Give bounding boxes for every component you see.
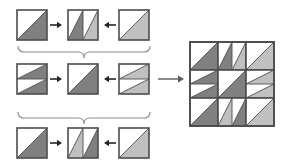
tile-base-light-cell-0: [119, 10, 149, 40]
tile-base-dark-bottom[interactable]: [17, 128, 47, 158]
tile-base-dark-center-cell-0: [68, 64, 98, 94]
tile-base-dark-center[interactable]: [68, 64, 98, 94]
arrow-right-middle-left: [50, 76, 62, 82]
row-middle: [17, 64, 149, 94]
tile-horizontal-split-dark-dark[interactable]: [17, 64, 47, 94]
grid-cell-2-1-cell-1: [232, 98, 246, 126]
grid-cell-2-1-cell-0: [218, 98, 232, 126]
tile-horizontal-split-dark-dark-cell-1: [17, 79, 47, 94]
arrow-left-top-right-head: [104, 22, 109, 28]
grid-cell-0-1[interactable]: [218, 42, 246, 70]
arrow-to-result: [158, 75, 184, 82]
grid-cell-1-2-cell-1: [246, 84, 274, 98]
tile-substitution-figure: [0, 0, 282, 167]
tile-vertical-split-dark-light-cell-0: [68, 10, 83, 40]
tile-base-dark-bottom-cell-0: [17, 128, 47, 158]
arrow-left-middle-right-head: [104, 76, 109, 82]
tile-horizontal-split-light-light-cell-1: [119, 79, 149, 94]
grid-cell-2-0[interactable]: [190, 98, 218, 126]
arrow-left-bottom-right: [104, 140, 116, 146]
arrow-right-bottom-left-head: [57, 140, 62, 146]
grid-cell-1-0[interactable]: [190, 70, 218, 98]
composite-tile-grid[interactable]: [190, 42, 274, 126]
grid-cell-1-2-cell-0: [246, 70, 274, 84]
tile-vertical-split-light-dark-cell-0: [68, 128, 83, 158]
arrow-right-top-left-head: [57, 22, 62, 28]
grid-cell-1-0-cell-0: [190, 70, 218, 84]
tile-vertical-split-dark-light-cell-1: [83, 10, 98, 40]
grid-cell-2-2[interactable]: [246, 98, 274, 126]
tile-base-dark[interactable]: [17, 10, 47, 40]
grid-cell-0-1-cell-1: [232, 42, 246, 70]
grid-cell-1-1[interactable]: [218, 70, 246, 98]
grid-cell-1-2[interactable]: [246, 70, 274, 98]
arrow-left-bottom-right-head: [104, 140, 109, 146]
grid-cell-0-1-cell-0: [218, 42, 232, 70]
grid-cell-0-2[interactable]: [246, 42, 274, 70]
brace-upper: [18, 46, 150, 58]
tile-horizontal-split-light-light-cell-0: [119, 64, 149, 79]
grid-cell-2-0-cell-0: [190, 98, 218, 126]
arrow-right-top-left: [50, 22, 62, 28]
tile-base-light[interactable]: [119, 10, 149, 40]
row-top: [17, 10, 149, 40]
grid-cell-0-0-cell-0: [190, 42, 218, 70]
arrow-right-bottom-left: [50, 140, 62, 146]
grid-cell-0-0[interactable]: [190, 42, 218, 70]
grid-cell-2-1[interactable]: [218, 98, 246, 126]
grid-cell-2-2-cell-0: [246, 98, 274, 126]
grid-cell-1-0-cell-1: [190, 84, 218, 98]
arrow-left-top-right: [104, 22, 116, 28]
brace-lower: [18, 112, 150, 124]
row-bottom: [17, 128, 149, 158]
tile-horizontal-split-dark-dark-cell-0: [17, 64, 47, 79]
tile-base-dark-cell-0: [17, 10, 47, 40]
tile-base-light-bottom-cell-0: [119, 128, 149, 158]
tile-base-light-bottom[interactable]: [119, 128, 149, 158]
tile-vertical-split-light-dark-cell-1: [83, 128, 98, 158]
arrow-left-middle-right: [104, 76, 116, 82]
arrow-to-result-head: [178, 75, 184, 82]
figure-canvas: [0, 0, 282, 167]
arrow-right-middle-left-head: [57, 76, 62, 82]
grid-cell-0-2-cell-0: [246, 42, 274, 70]
tile-vertical-split-dark-light[interactable]: [68, 10, 98, 40]
tile-horizontal-split-light-light[interactable]: [119, 64, 149, 94]
grid-cell-1-1-cell-0: [218, 70, 246, 98]
tile-vertical-split-light-dark[interactable]: [68, 128, 98, 158]
